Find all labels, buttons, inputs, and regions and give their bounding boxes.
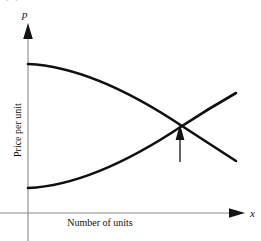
y-axis-variable-label: p [21,8,28,20]
y-axis-arrow-icon [23,23,33,39]
y-axis-caption: Price per unit [12,103,23,157]
x-axis-caption: Number of units [67,217,133,228]
supply-demand-figure: p q t t t t p x Price per unit [0,0,261,241]
x-axis-variable-label: x [249,207,255,219]
x-axis-arrow-icon [229,208,245,218]
chart-canvas: p x Price per unit Number of units [0,0,261,241]
